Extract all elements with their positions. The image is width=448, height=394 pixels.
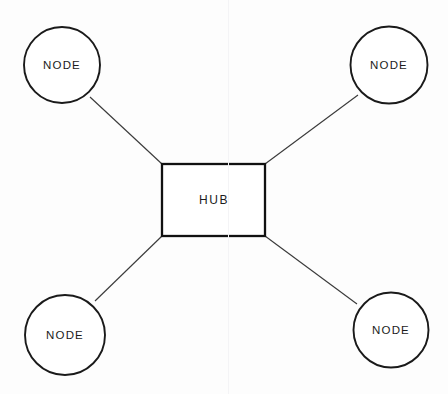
node-bottom-right[interactable]: NODE [354,293,429,368]
edge-hub-to-node-bottom-right [265,236,357,304]
edge-hub-to-node-top-right [265,95,358,164]
node-top-left[interactable]: NODE [24,27,100,103]
topology-diagram: HUB NODE NODE NODE NODE [0,0,448,394]
node-bottom-left[interactable]: NODE [25,295,105,375]
node-top-right[interactable]: NODE [351,27,428,104]
edge-hub-to-node-top-left [90,97,162,164]
hub-label: HUB [199,193,229,207]
node-top-right-label: NODE [370,59,408,71]
node-bottom-right-label: NODE [372,324,410,336]
node-bottom-left-label: NODE [46,329,84,341]
hub-node[interactable]: HUB [162,164,265,236]
edge-hub-to-node-bottom-left [95,236,162,301]
node-top-left-label: NODE [43,59,81,71]
topology-diagram-canvas: HUB NODE NODE NODE NODE [0,0,448,394]
